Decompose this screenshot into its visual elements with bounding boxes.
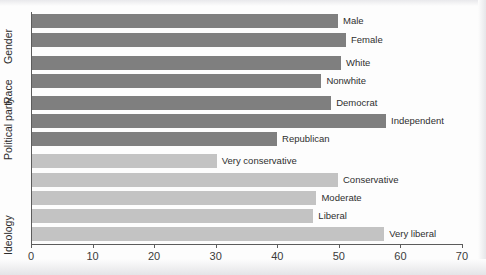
bar-row: Moderate — [32, 191, 463, 205]
bar-male — [32, 14, 338, 28]
bar-independent — [32, 114, 386, 128]
bar-moderate — [32, 191, 316, 205]
bar-very-conservative — [32, 154, 217, 168]
bar-row: Republican — [32, 132, 463, 146]
bar-label-independent: Independent — [386, 114, 444, 128]
x-tick-40 — [277, 244, 278, 248]
bar-row: Very liberal — [32, 227, 463, 241]
bar-row: Very conservative — [32, 154, 463, 168]
x-tick-label-50: 50 — [333, 250, 345, 262]
bar-very-liberal — [32, 227, 384, 241]
bar-row: White — [32, 56, 463, 70]
bar-label-republican: Republican — [277, 132, 330, 146]
x-tick-0 — [31, 244, 32, 248]
bar-female — [32, 33, 346, 47]
group-label-political-party: Political party — [2, 98, 14, 160]
bar-label-nonwhite: Nonwhite — [321, 74, 366, 88]
scanned-page: 010203040506070 GenderRacePolitical part… — [0, 0, 486, 275]
x-tick-30 — [216, 244, 217, 248]
bar-row: Conservative — [32, 173, 463, 187]
group-label-gender: Gender — [2, 29, 14, 64]
bar-nonwhite — [32, 74, 321, 88]
bar-label-moderate: Moderate — [316, 191, 361, 205]
bar-row: Nonwhite — [32, 74, 463, 88]
x-tick-50 — [339, 244, 340, 248]
bar-label-liberal: Liberal — [313, 209, 347, 223]
x-tick-label-20: 20 — [148, 250, 160, 262]
bar-row: Liberal — [32, 209, 463, 223]
x-tick-label-60: 60 — [394, 250, 406, 262]
x-tick-label-10: 10 — [86, 250, 98, 262]
x-tick-10 — [93, 244, 94, 248]
bar-label-white: White — [341, 56, 370, 70]
bar-label-democrat: Democrat — [331, 96, 377, 110]
bar-row: Male — [32, 14, 463, 28]
group-label-ideology: Ideology — [2, 215, 14, 255]
bar-row: Democrat — [32, 96, 463, 110]
x-tick-label-0: 0 — [28, 250, 34, 262]
x-tick-20 — [154, 244, 155, 248]
bar-chart: 010203040506070 GenderRacePolitical part… — [0, 0, 486, 275]
bar-republican — [32, 132, 277, 146]
bar-label-conservative: Conservative — [338, 173, 398, 187]
bar-label-female: Female — [346, 33, 383, 47]
bar-label-very-liberal: Very liberal — [384, 227, 436, 241]
bar-row: Female — [32, 33, 463, 47]
x-axis-line — [31, 244, 462, 245]
x-tick-label-30: 30 — [210, 250, 222, 262]
bar-liberal — [32, 209, 313, 223]
x-tick-60 — [400, 244, 401, 248]
bar-label-very-conservative: Very conservative — [217, 154, 297, 168]
bar-label-male: Male — [338, 14, 364, 28]
x-tick-label-70: 70 — [456, 250, 468, 262]
bar-democrat — [32, 96, 331, 110]
bar-conservative — [32, 173, 338, 187]
x-tick-70 — [462, 244, 463, 248]
x-tick-label-40: 40 — [271, 250, 283, 262]
bar-row: Independent — [32, 114, 463, 128]
bar-white — [32, 56, 341, 70]
